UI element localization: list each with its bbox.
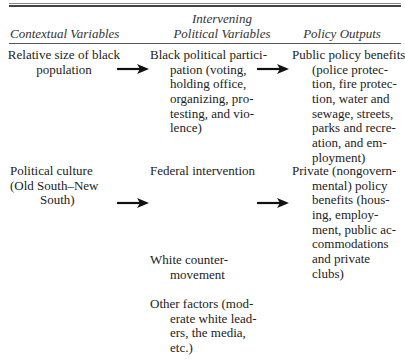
text-line: tion, water and bbox=[292, 92, 405, 107]
text-line: Black political partici- bbox=[150, 48, 267, 63]
text-line: sewage, streets, bbox=[292, 107, 405, 122]
text-line: Federal intervention bbox=[150, 164, 255, 179]
text-line: lence) bbox=[150, 121, 267, 136]
header-political-variables: Political Variables bbox=[152, 27, 292, 42]
text-line: organizing, pro- bbox=[150, 92, 267, 107]
text-line: clubs) bbox=[292, 267, 396, 282]
right-arrow-icon bbox=[117, 198, 149, 208]
text-line: (Old South–New bbox=[10, 179, 98, 194]
text-line: ers, the media, bbox=[150, 326, 257, 341]
text-line: Private (nongovern- bbox=[292, 164, 396, 179]
text-line: ation, and em- bbox=[292, 136, 405, 151]
top-rule-thick bbox=[9, 5, 401, 7]
intervening-variable-other-factors: Other factors (mod- erate white lead- er… bbox=[150, 297, 257, 356]
text-line: Relative size of black bbox=[4, 48, 124, 63]
right-arrow-icon bbox=[257, 198, 289, 208]
header-contextual-variables: Contextual Variables bbox=[10, 27, 119, 42]
text-line: benefits (hous- bbox=[292, 193, 396, 208]
header-intervening: Intervening bbox=[162, 12, 282, 27]
text-line: parks and recre- bbox=[292, 121, 405, 136]
text-line: etc.) bbox=[150, 341, 257, 356]
right-arrow-icon bbox=[257, 64, 289, 74]
top-rule-thin bbox=[9, 3, 401, 4]
header-rule bbox=[9, 43, 401, 44]
header-policy-outputs: Policy Outputs bbox=[290, 27, 394, 42]
text-line: population bbox=[4, 63, 124, 78]
text-line: movement bbox=[150, 268, 228, 283]
contextual-variable-1: Relative size of black population bbox=[4, 48, 124, 77]
text-line: holding office, bbox=[150, 77, 267, 92]
text-line: testing, and vio- bbox=[150, 107, 267, 122]
text-line: White counter- bbox=[150, 253, 228, 268]
policy-output-public-benefits: Public policy benefits (police protec- t… bbox=[292, 48, 405, 166]
text-line: Other factors (mod- bbox=[150, 297, 257, 312]
intervening-variable-black-participation: Black political partici- pation (voting,… bbox=[150, 48, 267, 136]
right-arrow-icon bbox=[117, 64, 149, 74]
text-line: tion, fire protec- bbox=[292, 77, 405, 92]
text-line: ment, public ac- bbox=[292, 223, 396, 238]
text-line: mental) policy bbox=[292, 179, 396, 194]
text-line: commodations bbox=[292, 237, 396, 252]
intervening-variable-federal-intervention: Federal intervention bbox=[150, 164, 255, 179]
text-line: ing, employ- bbox=[292, 208, 396, 223]
policy-output-private-benefits: Private (nongovern- mental) policy benef… bbox=[292, 164, 396, 282]
text-line: (police protec- bbox=[292, 63, 405, 78]
text-line: pation (voting, bbox=[150, 63, 267, 78]
intervening-variable-white-countermovement: White counter- movement bbox=[150, 253, 228, 282]
text-line: and private bbox=[292, 252, 396, 267]
contextual-variable-2: Political culture (Old South–New South) bbox=[10, 164, 98, 208]
text-line: Public policy benefits bbox=[292, 48, 405, 63]
text-line: South) bbox=[10, 193, 98, 208]
text-line: Political culture bbox=[10, 164, 98, 179]
text-line: erate white lead- bbox=[150, 312, 257, 327]
